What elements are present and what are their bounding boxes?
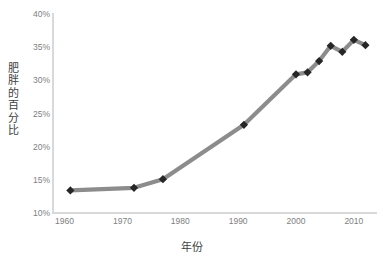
obesity-percentage-line-chart: 肥 胖 的 百 分 比 40%35%30%25%20%15%10% 196019… — [0, 0, 383, 259]
data-point-marker — [66, 186, 74, 194]
plot-area — [0, 0, 383, 259]
x-axis-title: 年份 — [0, 238, 383, 254]
